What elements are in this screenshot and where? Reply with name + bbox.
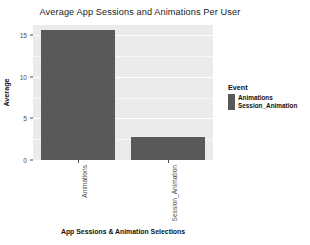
x-tick-label: Session_Animation bbox=[171, 165, 178, 221]
y-tick-mark bbox=[30, 118, 33, 119]
y-tick-label: 5 bbox=[23, 115, 27, 122]
legend-swatch-icon bbox=[228, 94, 235, 102]
chart-container: Average App Sessions and Animations Per … bbox=[0, 0, 310, 245]
y-tick-mark bbox=[30, 35, 33, 36]
legend-items: AnimationsSession_Animation bbox=[228, 94, 308, 110]
bar-Animations[interactable] bbox=[41, 30, 115, 160]
legend-swatch-icon bbox=[228, 102, 235, 110]
legend-item[interactable]: Session_Animation bbox=[228, 102, 308, 110]
x-tick-mark bbox=[78, 160, 79, 163]
y-tick-label: 0 bbox=[23, 157, 27, 164]
y-tick-label: 10 bbox=[20, 73, 27, 80]
chart-title: Average App Sessions and Animations Per … bbox=[30, 7, 250, 17]
x-tick-label: Animations bbox=[81, 165, 88, 198]
x-tick-mark bbox=[168, 160, 169, 163]
y-tick-mark bbox=[30, 76, 33, 77]
legend-item[interactable]: Animations bbox=[228, 94, 308, 102]
legend-item-label: Session_Animation bbox=[238, 102, 297, 110]
legend-title: Event bbox=[228, 83, 308, 92]
y-axis-title: Average bbox=[2, 25, 12, 160]
legend-item-label: Animations bbox=[238, 94, 273, 102]
legend: Event AnimationsSession_Animation bbox=[228, 83, 308, 110]
x-axis: AnimationsSession_Animation bbox=[33, 160, 213, 220]
bar-Session_Animation[interactable] bbox=[131, 137, 205, 160]
y-tick-label: 15 bbox=[20, 32, 27, 39]
plot-panel bbox=[33, 25, 213, 160]
x-axis-title: App Sessions & Animation Selections bbox=[33, 228, 213, 235]
